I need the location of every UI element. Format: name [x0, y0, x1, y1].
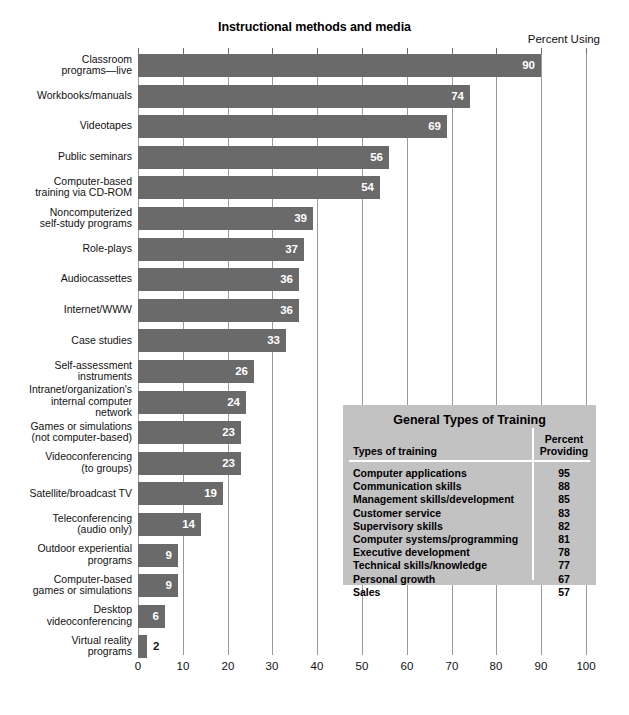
bar-value-label: 36 [280, 271, 293, 287]
category-label-line: Public seminars [2, 151, 132, 163]
inset-row-percent: 88 [535, 480, 593, 492]
category-label-line: Audiocassettes [2, 273, 132, 285]
inset-row-label: Computer systems/programming [353, 533, 518, 545]
bar [138, 605, 165, 628]
inset-row-percent: 77 [535, 559, 593, 571]
bar-value-label: 14 [182, 516, 195, 532]
bar-value-label: 19 [204, 485, 217, 501]
bar-row: 36 [138, 268, 586, 291]
inset-table-row: Communication skills88 [343, 480, 596, 493]
general-types-of-training-table: General Types of Training Types of train… [343, 405, 596, 585]
category-label: Videoconferencing(to groups) [2, 451, 132, 474]
category-label-line: Workbooks/manuals [2, 90, 132, 102]
inset-row-label: Executive development [353, 546, 470, 558]
bar [138, 268, 299, 291]
bar-row: 6 [138, 605, 586, 628]
bar-value-label: 36 [280, 302, 293, 318]
category-label: Internet/WWW [2, 304, 132, 316]
bar-value-label: 54 [361, 179, 374, 195]
inset-table-row: Management skills/development85 [343, 493, 596, 506]
bar-value-label: 23 [222, 455, 235, 471]
category-label-line: Outdoor experiential [2, 543, 132, 555]
x-tick-label: 50 [342, 660, 382, 672]
bar-value-label: 24 [227, 394, 240, 410]
category-label-line: videoconferencing [2, 616, 132, 628]
x-tick-label: 80 [476, 660, 516, 672]
bar-value-label: 23 [222, 424, 235, 440]
bar-value-label: 39 [294, 210, 307, 226]
category-label: Computer-basedgames or simulations [2, 574, 132, 597]
bar-row: 56 [138, 146, 586, 169]
bar-row: 26 [138, 360, 586, 383]
inset-row-label: Personal growth [353, 573, 435, 585]
inset-row-percent: 57 [535, 586, 593, 598]
inset-table-row: Customer service83 [343, 507, 596, 520]
bar [138, 299, 299, 322]
category-label-line: Role-plays [2, 243, 132, 255]
bar-row: 54 [138, 176, 586, 199]
bar [138, 329, 286, 352]
category-label-line: (audio only) [2, 524, 132, 536]
category-label: Computer-basedtraining via CD-ROM [2, 176, 132, 199]
bar [138, 85, 470, 108]
bar-row: 69 [138, 115, 586, 138]
category-label-line: instruments [2, 371, 132, 383]
inset-row-percent: 95 [535, 467, 593, 479]
inset-row-percent: 67 [535, 573, 593, 585]
inset-row-label: Technical skills/knowledge [353, 559, 487, 571]
bar [138, 635, 147, 658]
x-tick-label: 70 [432, 660, 472, 672]
category-label-line: (to groups) [2, 463, 132, 475]
bar [138, 574, 178, 597]
bar-row: 90 [138, 54, 586, 77]
x-tick-label: 40 [297, 660, 337, 672]
category-label: Public seminars [2, 151, 132, 163]
bar-value-label: 56 [370, 149, 383, 165]
inset-table-row: Supervisory skills82 [343, 520, 596, 533]
category-label: Intranet/organization'sinternal computer… [2, 384, 132, 419]
bar-value-label: 74 [451, 88, 464, 104]
inset-row-percent: 85 [535, 493, 593, 505]
bar [138, 544, 178, 567]
bar-row: 74 [138, 85, 586, 108]
x-tick-label: 0 [118, 660, 158, 672]
category-label: Satellite/broadcast TV [2, 488, 132, 500]
bar-value-label: 33 [267, 332, 280, 348]
inset-table-title: General Types of Training [343, 413, 596, 427]
x-tick-label: 10 [163, 660, 203, 672]
inset-table-row: Technical skills/knowledge77 [343, 559, 596, 572]
bar-value-label: 90 [522, 57, 535, 73]
chart-title: Instructional methods and media [0, 20, 629, 34]
category-label: Teleconferencing(audio only) [2, 513, 132, 536]
category-label-line: programs [2, 555, 132, 567]
category-label-line: self-study programs [2, 218, 132, 230]
category-label: Games or simulations(not computer-based) [2, 421, 132, 444]
category-label-line: programs [2, 646, 132, 658]
category-label-line: (not computer-based) [2, 432, 132, 444]
category-label: Outdoor experientialprograms [2, 543, 132, 566]
category-label: Role-plays [2, 243, 132, 255]
category-label: Classroomprograms—live [2, 54, 132, 77]
inset-row-label: Sales [353, 586, 380, 598]
bar-row: 33 [138, 329, 586, 352]
inset-row-label: Communication skills [353, 480, 462, 492]
bar-value-label: 69 [428, 118, 441, 134]
percent-using-axis-label: Percent Using [528, 33, 600, 45]
inset-table-row: Personal growth67 [343, 573, 596, 586]
category-label: Self-assessmentinstruments [2, 360, 132, 383]
bar [138, 115, 447, 138]
inset-row-label: Management skills/development [353, 493, 514, 505]
bar-value-label: 26 [235, 363, 248, 379]
x-tick-label: 20 [208, 660, 248, 672]
inset-header-percent-providing: Percent Providing [535, 433, 593, 457]
inset-row-label: Customer service [353, 507, 441, 519]
inset-row-label: Supervisory skills [353, 520, 443, 532]
chart-page: Instructional methods and media Percent … [0, 0, 629, 715]
category-label-line: programs—live [2, 65, 132, 77]
inset-header-percent-line2: Providing [535, 445, 593, 457]
category-label: Noncomputerizedself-study programs [2, 207, 132, 230]
inset-table-row: Computer systems/programming81 [343, 533, 596, 546]
bar-value-label: 9 [166, 577, 172, 593]
category-label-line: Internet/WWW [2, 304, 132, 316]
bar-row: 36 [138, 299, 586, 322]
